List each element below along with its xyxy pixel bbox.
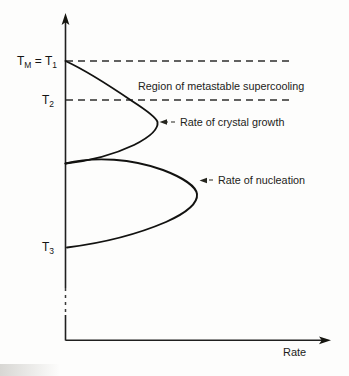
annotation-region-metastable-supercooling: Region of metastable supercooling <box>138 80 304 92</box>
t1-equals: = <box>31 54 44 68</box>
annotation-leaders <box>160 119 214 183</box>
y-tick-labels: TM = T1 T2 T3 <box>17 54 57 256</box>
y-tick-label-t2: T2 <box>42 93 54 109</box>
x-axis-label-rate: Rate <box>283 346 306 358</box>
figure-canvas: TM = T1 T2 T3 Region of metastable super… <box>0 0 349 376</box>
leader-arrow-nucleation-icon <box>200 178 208 184</box>
t2-subscript: 2 <box>49 99 54 109</box>
curve-rate-of-nucleation <box>66 159 198 247</box>
annotation-rate-of-crystal-growth: Rate of crystal growth <box>180 116 284 128</box>
t1-subscript-m: M <box>24 60 31 70</box>
leader-arrow-crystal-growth-icon <box>160 119 168 125</box>
y-tick-label-t1: TM = T1 <box>17 54 57 70</box>
t1-subscript-1: 1 <box>52 60 57 70</box>
annotation-rate-of-nucleation: Rate of nucleation <box>218 174 305 186</box>
t3-subscript: 3 <box>49 246 54 256</box>
curve-rate-of-crystal-growth <box>66 61 158 164</box>
y-tick-label-t3: T3 <box>42 240 54 256</box>
nucleation-crystal-growth-diagram: TM = T1 T2 T3 Region of metastable super… <box>0 0 349 376</box>
